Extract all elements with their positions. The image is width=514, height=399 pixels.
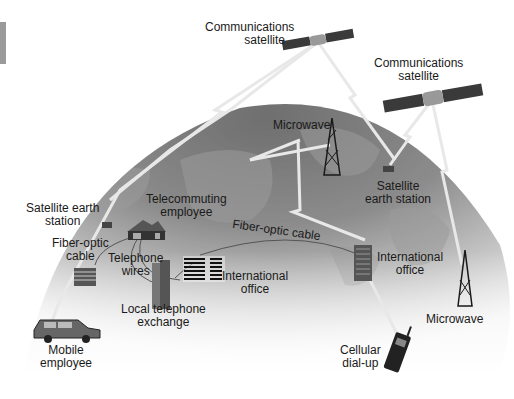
- label-microwave-top: Microwave: [273, 119, 330, 132]
- label-mobile-employee: Mobile employee: [40, 344, 92, 370]
- network-diagram: Communications satellite Communications …: [0, 0, 514, 399]
- label-telephone-wires: Telephone wires: [108, 252, 163, 278]
- label-cellular: Cellular dial-up: [340, 344, 381, 370]
- earth-station-icon: [102, 222, 112, 228]
- label-intl-office-right: International office: [377, 251, 443, 277]
- label-fiber-optic-left: Fiber-optic cable: [52, 237, 109, 263]
- label-sat-earth-station-left: Satellite earth station: [26, 202, 99, 228]
- international-office-building-icon: [183, 256, 225, 282]
- label-microwave-right: Microwave: [426, 313, 483, 326]
- building-icon: [74, 268, 96, 286]
- label-intl-office-center: International office: [222, 270, 288, 296]
- label-comm-satellite-1: Communications satellite: [205, 21, 294, 47]
- international-office-building-icon: [354, 245, 372, 281]
- label-telecommuting: Telecommuting employee: [146, 193, 227, 219]
- label-local-exchange: Local telephone exchange: [121, 303, 206, 329]
- earth-station-icon: [383, 166, 394, 172]
- label-comm-satellite-2: Communications satellite: [374, 57, 463, 83]
- label-sat-earth-station-right: Satellite earth station: [365, 180, 431, 206]
